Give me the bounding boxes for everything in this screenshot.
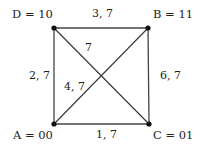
edge-label-d-a: 2, 7 xyxy=(29,70,50,81)
edge-label-a-c: 1, 7 xyxy=(96,129,117,140)
vertex-a xyxy=(51,121,56,126)
vertex-label-b: B = 11 xyxy=(153,9,193,20)
vertex-label-d: D = 10 xyxy=(12,9,53,20)
edge-label-d-c: 7 xyxy=(85,42,92,53)
graph-diagram: D = 10 B = 11 A = 00 C = 01 3, 7 2, 7 6,… xyxy=(0,0,201,149)
vertex-b xyxy=(145,25,150,30)
edge-label-b-c: 6, 7 xyxy=(160,70,181,81)
vertex-d xyxy=(51,25,56,30)
edge-label-a-b: 4, 7 xyxy=(64,81,85,92)
edge-b-c xyxy=(148,28,149,124)
vertex-c xyxy=(146,121,151,126)
vertex-label-c: C = 01 xyxy=(153,130,193,141)
edge-label-d-b: 3, 7 xyxy=(92,8,113,19)
vertex-label-a: A = 00 xyxy=(13,130,53,141)
